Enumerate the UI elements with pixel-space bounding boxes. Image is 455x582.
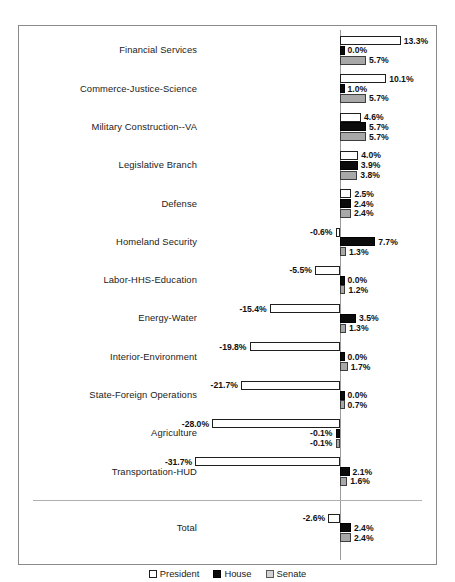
total-value-senate: 2.4%: [354, 534, 374, 543]
legend-item-senate[interactable]: Senate: [266, 568, 307, 579]
total-divider: [33, 500, 422, 501]
category-11-value-senate: 1.6%: [350, 477, 370, 486]
category-10-bar-senate: [336, 439, 341, 448]
category-7-label: Energy-Water: [19, 312, 197, 323]
category-5-value-house: 7.7%: [378, 238, 398, 247]
category-11-bar-senate: [340, 477, 347, 486]
category-8-bar-house: [340, 352, 345, 361]
legend-item-house[interactable]: House: [213, 568, 251, 579]
category-4-value-senate: 2.4%: [354, 209, 374, 218]
category-4-bar-senate: [340, 209, 351, 218]
category-6-bar-senate: [340, 285, 345, 294]
chart-frame: Financial Services13.3%0.0%5.7%Commerce-…: [18, 25, 437, 565]
category-4-bar-president: [340, 189, 351, 198]
category-2-value-senate: 5.7%: [369, 133, 389, 142]
category-7-value-senate: 1.3%: [349, 324, 369, 333]
category-6-value-house: 0.0%: [348, 276, 368, 285]
total-bar-house: [340, 523, 351, 532]
category-3-bar-president: [340, 151, 358, 160]
category-7-value-president: -15.4%: [239, 305, 266, 314]
category-7-value-house: 3.5%: [359, 314, 379, 323]
category-0-label: Financial Services: [19, 44, 197, 55]
category-2-bar-house: [340, 122, 366, 131]
category-10-value-house: -0.1%: [310, 429, 332, 438]
category-8-value-house: 0.0%: [348, 353, 368, 362]
category-0-bar-president: [340, 36, 401, 45]
category-9-label: State-Foreign Operations: [19, 389, 197, 400]
category-1-bar-senate: [340, 94, 366, 103]
legend-label-house: House: [224, 568, 251, 579]
legend-label-president: President: [160, 568, 200, 579]
total-bar-president: [328, 514, 340, 523]
category-1-value-senate: 5.7%: [369, 94, 389, 103]
category-4-value-house: 2.4%: [354, 200, 374, 209]
category-11-value-house: 2.1%: [353, 468, 373, 477]
category-8-label: Interior-Environment: [19, 351, 197, 362]
category-9-bar-senate: [340, 400, 345, 409]
total-value-president: -2.6%: [303, 514, 325, 523]
category-5-value-senate: 1.3%: [349, 248, 369, 257]
category-10-label: Agriculture: [19, 427, 197, 438]
category-2-value-house: 5.7%: [369, 123, 389, 132]
category-11-bar-president: [195, 457, 340, 466]
category-7-bar-president: [270, 304, 340, 313]
category-2-value-president: 4.6%: [364, 113, 384, 122]
category-4-value-president: 2.5%: [354, 190, 374, 199]
category-1-bar-house: [340, 84, 345, 93]
category-9-bar-house: [340, 391, 345, 400]
category-0-value-senate: 5.7%: [369, 56, 389, 65]
category-5-bar-senate: [340, 247, 346, 256]
category-2-bar-president: [340, 113, 361, 122]
category-8-value-president: -19.8%: [219, 343, 246, 352]
category-3-value-president: 4.0%: [361, 151, 381, 160]
category-10-value-senate: -0.1%: [310, 439, 332, 448]
category-1-bar-president: [340, 74, 386, 83]
category-9-bar-president: [241, 381, 340, 390]
category-4-label: Defense: [19, 198, 197, 209]
category-3-value-house: 3.9%: [361, 161, 381, 170]
category-6-bar-house: [340, 276, 345, 285]
category-0-bar-house: [340, 46, 345, 55]
category-1-value-house: 1.0%: [348, 85, 368, 94]
category-2-bar-senate: [340, 132, 366, 141]
category-11-value-president: -31.7%: [165, 458, 192, 467]
category-1-label: Commerce-Justice-Science: [19, 83, 197, 94]
bar-chart-plot-area: Financial Services13.3%0.0%5.7%Commerce-…: [19, 26, 436, 564]
category-6-value-senate: 1.2%: [348, 286, 368, 295]
total-bar-senate: [340, 533, 351, 542]
category-1-value-president: 10.1%: [389, 75, 413, 84]
category-6-label: Labor-HHS-Education: [19, 274, 197, 285]
category-3-value-senate: 3.8%: [360, 171, 380, 180]
category-7-bar-senate: [340, 324, 346, 333]
category-0-bar-senate: [340, 56, 366, 65]
category-5-label: Homeland Security: [19, 236, 197, 247]
legend-item-president[interactable]: President: [149, 568, 200, 579]
category-2-label: Military Construction--VA: [19, 121, 197, 132]
legend-label-senate: Senate: [277, 568, 307, 579]
category-8-value-senate: 1.7%: [351, 363, 371, 372]
category-11-bar-house: [340, 467, 350, 476]
category-6-bar-president: [315, 266, 340, 275]
category-5-bar-president: [336, 228, 341, 237]
category-10-bar-president: [212, 419, 340, 428]
category-10-bar-house: [336, 429, 341, 438]
category-5-value-president: -0.6%: [310, 228, 332, 237]
category-9-value-house: 0.0%: [348, 391, 368, 400]
legend-swatch-senate-icon: [266, 570, 274, 578]
category-4-bar-house: [340, 199, 351, 208]
category-3-bar-house: [340, 161, 358, 170]
legend-swatch-house-icon: [213, 570, 221, 578]
category-8-bar-senate: [340, 362, 348, 371]
category-3-bar-senate: [340, 171, 357, 180]
category-0-value-president: 13.3%: [404, 37, 428, 46]
category-0-value-house: 0.0%: [348, 46, 368, 55]
category-9-value-senate: 0.7%: [348, 401, 368, 410]
category-3-label: Legislative Branch: [19, 159, 197, 170]
category-11-label: Transportation-HUD: [19, 466, 197, 477]
category-8-bar-president: [250, 342, 340, 351]
total-value-house: 2.4%: [354, 524, 374, 533]
category-6-value-president: -5.5%: [289, 266, 311, 275]
category-7-bar-house: [340, 314, 356, 323]
category-9-value-president: -21.7%: [211, 381, 238, 390]
total-label: Total: [19, 522, 197, 533]
